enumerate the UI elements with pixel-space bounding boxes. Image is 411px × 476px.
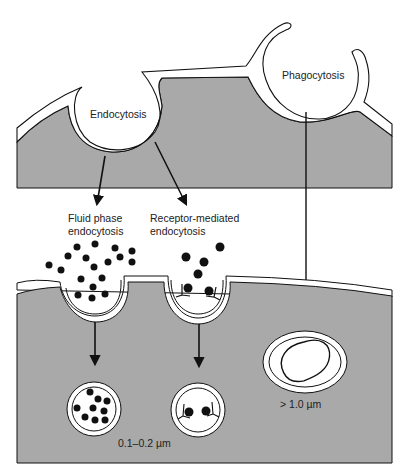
- phagosome: [263, 331, 347, 393]
- receptor-mediated-vesicle: [171, 383, 225, 437]
- endocytosis-diagram: Endocytosis Phagocytosis Fluid phase end…: [0, 0, 411, 476]
- receptor-ligands: [176, 243, 225, 301]
- endocytosis-label: Endocytosis: [90, 108, 147, 120]
- phagocytosis-label: Phagocytosis: [282, 69, 344, 81]
- fluid-phase-label-line1: Fluid phase: [68, 212, 122, 224]
- receptor-mediated-label-line2: endocytosis: [150, 225, 205, 237]
- upper-cell: [17, 23, 392, 188]
- fluid-phase-vesicle: [67, 382, 121, 436]
- fluid-phase-label-line2: endocytosis: [68, 225, 123, 237]
- phagosome-size-label: > 1.0 µm: [280, 398, 322, 410]
- small-vesicle-size-label: 0.1–0.2 µm: [118, 437, 171, 449]
- receptor-mediated-label-line1: Receptor-mediated: [150, 212, 239, 224]
